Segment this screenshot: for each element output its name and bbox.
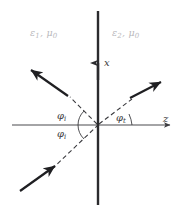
medium-2-label: ε2, μ0 (112, 27, 139, 40)
angle-arc-incident-upper (78, 111, 84, 125)
refraction-diagram: ε1, μ0 ε2, μ0 φi φi φt x z (0, 0, 190, 214)
transmitted-ray (130, 82, 161, 98)
z-axis-label: z (163, 113, 168, 124)
angle-arc-incident-lower (78, 125, 84, 139)
x-axis-label: x (104, 57, 110, 68)
angle-subscript-reflected: i (64, 115, 66, 123)
medium-1-label: ε1, μ0 (30, 27, 57, 40)
angle-symbol-reflected: φ (57, 110, 64, 121)
reflected-ray (31, 70, 68, 96)
medium-1-permeability-subscript: 0 (53, 32, 58, 40)
medium-2-permeability-subscript: 0 (135, 32, 140, 40)
angle-label-reflected: φi (57, 110, 66, 123)
angle-subscript-incident: i (64, 133, 66, 141)
angle-arc-transmitted (129, 114, 132, 125)
reflected-ray-dashed (70, 97, 97, 124)
angle-symbol-incident: φ (57, 128, 64, 139)
angle-symbol-transmitted: φ (116, 112, 123, 123)
angle-label-transmitted: φt (116, 112, 126, 125)
angle-label-incident: φi (57, 128, 66, 141)
incident-ray (20, 166, 55, 191)
diagram-canvas (0, 0, 190, 214)
angle-subscript-transmitted: t (123, 117, 126, 125)
